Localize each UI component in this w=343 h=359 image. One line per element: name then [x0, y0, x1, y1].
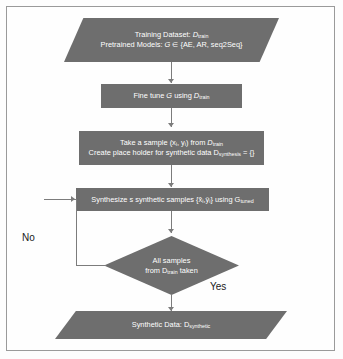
flowchart-canvas: Training Dataset: Dtrain Pretrained Mode… [0, 0, 343, 359]
node-input-dataset: Training Dataset: Dtrain Pretrained Mode… [64, 18, 279, 62]
loop-segment-vertical [76, 199, 77, 266]
node-fine-tune-label: Fine tune G using Dtrain [133, 91, 209, 101]
node-input-line1: Training Dataset: Dtrain [135, 30, 209, 40]
node-take-sample-line2: Create place holder for synthetic data D… [89, 148, 255, 158]
node-output-label: Synthetic Data: Dsynthetic [132, 320, 210, 330]
edge-label-yes: Yes [210, 281, 226, 292]
node-synthesize-label: Synthesize s synthetic samples {x̂i,ŷi} … [91, 195, 253, 205]
node-input-line2: Pretrained Models: G ∈ {AE, AR, seq2Seq} [101, 40, 243, 50]
loop-segment-from-decision [76, 265, 106, 266]
edge-label-no: No [22, 232, 35, 243]
node-decision-line2: from Dtrain taken [145, 266, 198, 276]
arrow-decision-to-output [168, 307, 174, 311]
node-take-sample: Take a sample (xi, yi) from Dtrain Creat… [79, 131, 264, 165]
node-synthesize: Synthesize s synthetic samples {x̂i,ŷi} … [76, 188, 269, 211]
node-output-synthetic-data: Synthetic Data: Dsynthetic [55, 311, 287, 339]
node-decision-line1: All samples [145, 256, 198, 266]
arrow-finetune-to-sample [168, 123, 174, 127]
arrow-input-to-finetune [168, 79, 174, 83]
node-take-sample-line1: Take a sample (xi, yi) from Dtrain [120, 138, 223, 148]
arrow-loop-into-synthesize [71, 196, 75, 202]
arrow-synthesize-to-decision [168, 229, 174, 233]
node-decision-label: All samples from Dtrain taken [145, 256, 198, 276]
arrow-sample-to-synthesize [168, 183, 174, 187]
node-fine-tune: Fine tune G using Dtrain [101, 84, 242, 108]
